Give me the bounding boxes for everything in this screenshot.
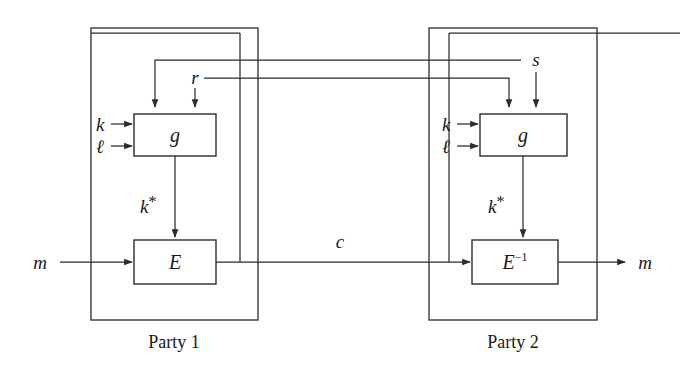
label-k-right: k bbox=[442, 114, 451, 135]
label-l-right: ℓ bbox=[442, 136, 450, 157]
label-c: c bbox=[336, 231, 345, 252]
block-e-left-label: E bbox=[168, 251, 181, 273]
wire-s-to-g-left bbox=[155, 60, 521, 107]
wire-r-to-g-right bbox=[204, 78, 509, 107]
party2-caption: Party 2 bbox=[487, 332, 539, 352]
party1-caption: Party 1 bbox=[148, 332, 200, 352]
label-kstar-left: k* bbox=[140, 193, 156, 217]
label-l-left: ℓ bbox=[96, 136, 104, 157]
block-g-left-label: g bbox=[170, 124, 180, 147]
label-kstar-right: k* bbox=[488, 193, 504, 217]
protocol-diagram: g k ℓ k* E m c g k ℓ k* E−1 m bbox=[0, 0, 680, 381]
block-g-right-label: g bbox=[518, 124, 528, 147]
label-k-left: k bbox=[96, 114, 105, 135]
label-r: r bbox=[191, 67, 199, 88]
label-m-output: m bbox=[638, 252, 652, 273]
label-s: s bbox=[532, 49, 539, 70]
protocol-diagram-canvas: g k ℓ k* E m c g k ℓ k* E−1 m bbox=[0, 0, 680, 381]
label-m-input: m bbox=[33, 252, 47, 273]
